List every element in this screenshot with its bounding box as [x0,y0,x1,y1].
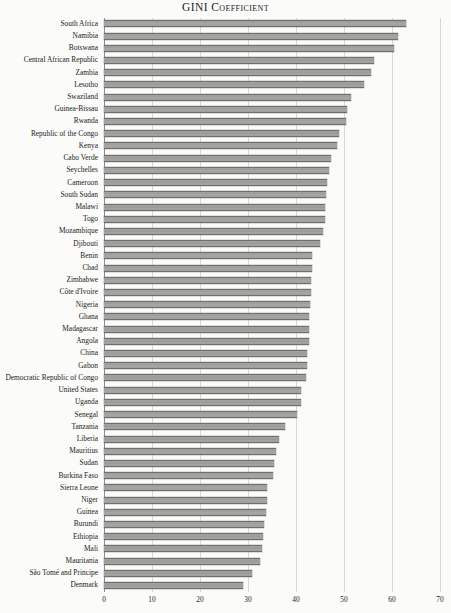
bar [104,521,264,528]
bar [104,45,394,52]
xtick-label-30: 30 [244,595,251,604]
bar-row [104,335,440,347]
category-label: Burkina Faso [58,471,98,480]
bar-row [104,250,440,262]
bar [104,277,311,284]
category-label: Democratic Republic of Congo [5,373,98,382]
category-label: Mauritius [69,446,98,455]
bar [104,216,325,223]
bar-row [104,287,440,299]
bar [104,155,331,162]
category-label: Central African Republic [24,55,98,64]
category-label: Sudan [80,458,98,467]
bar-row [104,348,440,360]
category-label: Madagascar [62,324,98,333]
bar [104,497,267,504]
bar [104,106,347,113]
bar-row [104,91,440,103]
bar [104,252,312,259]
bar [104,69,371,76]
bar-row [104,372,440,384]
bar [104,582,243,589]
category-label: Kenya [79,141,98,150]
category-label: Swaziland [67,92,98,101]
category-label: Djibouti [73,239,98,248]
bar-row [104,567,440,579]
xtick-label-10: 10 [148,595,155,604]
bar [104,411,297,418]
bar [104,204,325,211]
category-label: South Africa [60,19,98,28]
category-label: Mauritania [66,556,98,565]
bar-row [104,445,440,457]
value-axis-labels: 010203040506070 [104,595,440,611]
bar [104,362,307,369]
bar-row [104,116,440,128]
bar-row [104,201,440,213]
category-label: Zimbabwe [66,275,98,284]
category-label: Seychelles [66,165,98,174]
category-label: Cabo Verde [63,153,98,162]
bar [104,423,285,430]
category-label: Namibia [73,31,98,40]
bar-row [104,30,440,42]
bar-row [104,165,440,177]
category-label: Mali [84,544,98,553]
bar-row [104,494,440,506]
category-label: Gabon [78,361,98,370]
category-label: Mozambique [59,226,98,235]
bar [104,265,312,272]
bar-row [104,42,440,54]
bar [104,142,337,149]
bar-row [104,103,440,115]
category-label: Liberia [77,434,98,443]
bar [104,399,301,406]
bar-row [104,79,440,91]
category-axis-labels: South AfricaNamibiaBotswanaCentral Afric… [0,18,101,592]
bar [104,167,329,174]
bar [104,94,351,101]
category-label: Burundi [74,519,98,528]
bar-row [104,152,440,164]
bar [104,472,273,479]
category-label: Nigeria [76,300,98,309]
plot-area [104,18,440,592]
chart-title: GINI Coefficient [0,1,451,13]
xtick-label-40: 40 [292,595,299,604]
bar-row [104,128,440,140]
bar-row [104,213,440,225]
category-label: Guinea [77,507,98,516]
category-label: Republic of the Congo [31,129,98,138]
bar [104,20,406,27]
bar-row [104,531,440,543]
bar-row [104,470,440,482]
category-label: Ethiopia [73,532,98,541]
bar-row [104,18,440,30]
bar [104,130,339,137]
bar [104,240,320,247]
bar [104,558,260,565]
bar [104,228,323,235]
category-label: Ghana [79,312,98,321]
bar-row [104,67,440,79]
category-label: Senegal [75,410,98,419]
bar [104,313,309,320]
bar [104,179,327,186]
bar [104,338,309,345]
category-label: Sierra Leone [60,483,98,492]
category-label: Tanzania [71,422,98,431]
bar-row [104,543,440,555]
bar [104,436,279,443]
bar-row [104,384,440,396]
bar-row [104,177,440,189]
category-label: Zambia [75,68,98,77]
category-label: Denmark [71,580,99,589]
bar [104,350,307,357]
xtick-label-50: 50 [340,595,347,604]
bar [104,484,267,491]
bar-row [104,323,440,335]
bar-row [104,458,440,470]
bar [104,118,346,125]
bar [104,533,263,540]
bar-row [104,140,440,152]
